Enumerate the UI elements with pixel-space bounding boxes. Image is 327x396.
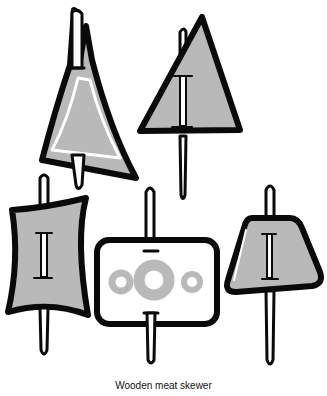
figure-caption: Wooden meat skewer [0,380,327,391]
tall-sail-skewer [42,10,136,189]
illustration: Wooden meat skewer [0,0,327,396]
trapezoid-skewer [227,186,321,364]
triangle-skewer [140,17,240,199]
rounded-rectangle-skewer [97,188,217,363]
concave-rectangle-skewer [8,175,88,354]
skewers-drawing [0,0,327,396]
